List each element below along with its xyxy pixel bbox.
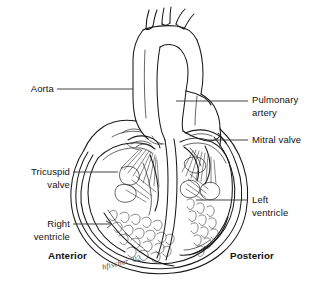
label-tricuspid-valve: Tricuspid valve: [4, 166, 70, 191]
label-pulmonary-artery: Pulmonary artery: [252, 94, 314, 119]
label-right-ventricle: Right ventricle: [4, 218, 70, 243]
label-left-ventricle: Left ventricle: [252, 194, 312, 219]
label-anterior: Anterior: [48, 250, 110, 263]
heart-diagram-page: .s { fill:none; stroke:#1a1a1a; stroke-w…: [0, 0, 316, 301]
label-posterior: Posterior: [230, 250, 294, 263]
label-aorta: Aorta: [8, 83, 54, 96]
label-mitral-valve: Mitral valve: [252, 134, 316, 147]
